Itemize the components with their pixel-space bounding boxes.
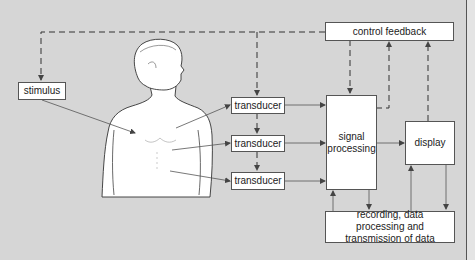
transducer-box-1: transducer: [231, 97, 285, 114]
control-feedback-box: control feedback: [325, 22, 454, 41]
transducer-label-3: transducer: [234, 175, 281, 187]
diagram-canvas: stimulus transducer transducer transduce…: [0, 0, 475, 260]
transducer-label-1: transducer: [234, 100, 281, 112]
transducer-box-2: transducer: [231, 135, 285, 152]
signal-processing-box: signal processing: [326, 95, 377, 190]
transducer-box-3: transducer: [231, 172, 285, 190]
display-box: display: [405, 121, 455, 165]
transducer-label-2: transducer: [234, 138, 281, 150]
stimulus-label: stimulus: [24, 85, 61, 97]
control-feedback-label: control feedback: [353, 26, 426, 38]
display-label: display: [414, 137, 445, 149]
recording-label: recording, data processing and transmiss…: [338, 209, 442, 245]
signal-processing-label: signal processing: [327, 131, 375, 155]
recording-box: recording, data processing and transmiss…: [325, 211, 455, 243]
stimulus-box: stimulus: [18, 82, 66, 100]
human-torso-figure: [102, 39, 212, 197]
